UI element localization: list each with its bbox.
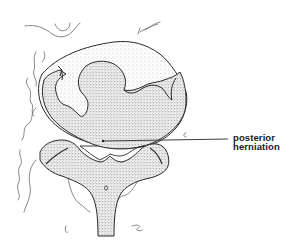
tissue-mark-c: [184, 133, 186, 137]
tissue-squiggle-left-1: [34, 52, 37, 86]
tissue-squiggle-top-left: [25, 23, 80, 37]
tissue-squiggle-top-left-2: [55, 23, 70, 31]
annotation-line-2: herniation: [233, 142, 280, 151]
leader-dot: [102, 140, 104, 142]
tissue-squiggle-left-5: [18, 150, 22, 200]
tissue-squiggle-small-left: [65, 226, 68, 233]
vertebra-illustration: [0, 0, 292, 252]
tissue-squiggle-left-6: [24, 160, 36, 212]
spinous-foramen: [105, 186, 108, 190]
tissue-squiggle-small-right: [132, 225, 142, 231]
tissue-squiggle-left-2: [42, 52, 45, 62]
tissue-squiggle-left-4: [22, 108, 36, 140]
tissue-squiggle-top-right: [138, 22, 160, 34]
tissue-squiggle-left-3: [26, 78, 34, 116]
annotation-label: posterior herniation: [233, 133, 280, 151]
